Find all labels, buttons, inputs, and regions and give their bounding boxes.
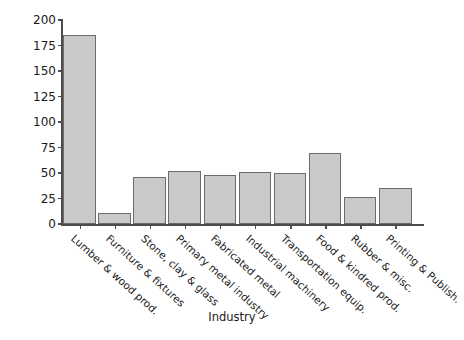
bar-chart-figure: Fatalities in 2000 025507510012515017520… [0, 0, 464, 340]
x-axis-tick-mark [115, 224, 117, 229]
y-axis-tick-mark [58, 70, 62, 72]
y-axis-tick-label: 0 [30, 218, 56, 230]
x-axis-tick-mark [185, 224, 187, 229]
bar [274, 173, 307, 224]
y-axis-tick-mark [58, 121, 62, 123]
y-axis-tick-label: 125 [30, 91, 56, 103]
y-axis-tick: 200 [30, 14, 62, 26]
y-axis-tick-label: 50 [30, 167, 56, 179]
y-axis-tick-label: 25 [30, 193, 56, 205]
y-axis-tick: 100 [30, 116, 62, 128]
x-axis-category-label: Rubber & misc. [349, 232, 417, 295]
y-axis-tick: 125 [30, 91, 62, 103]
y-axis-tick-mark [58, 45, 62, 47]
y-axis-tick: 175 [30, 40, 62, 52]
y-axis-tick-mark [58, 96, 62, 98]
y-axis-tick-mark [58, 172, 62, 174]
y-axis-tick: 25 [30, 193, 62, 205]
y-axis-tick-label: 200 [30, 14, 56, 26]
bar [379, 188, 412, 224]
x-axis-tick-mark [395, 224, 397, 229]
y-axis-tick-label: 150 [30, 65, 56, 77]
bar [63, 35, 96, 224]
y-axis-tick-mark [58, 198, 62, 200]
y-axis-tick: 50 [30, 167, 62, 179]
y-axis-tick-label: 100 [30, 116, 56, 128]
x-axis-title: Industry [0, 310, 464, 324]
x-axis-tick-mark [255, 224, 257, 229]
bar [204, 175, 237, 224]
y-axis-tick-label: 175 [30, 40, 56, 52]
y-axis-tick-mark [58, 19, 62, 21]
bar [309, 153, 342, 224]
bar [344, 197, 377, 224]
y-axis-tick-label: 75 [30, 142, 56, 154]
y-axis-tick: 150 [30, 65, 62, 77]
x-axis-tick-mark [360, 224, 362, 229]
x-axis-tick-mark [290, 224, 292, 229]
y-axis-tick-mark [58, 223, 62, 225]
x-axis-tick-mark [220, 224, 222, 229]
bar [98, 213, 131, 224]
bar [239, 172, 272, 224]
x-axis-tick-mark [80, 224, 82, 229]
bar [168, 171, 201, 224]
y-axis-tick: 75 [30, 142, 62, 154]
plot-area: 0255075100125150175200 [62, 20, 424, 224]
x-axis-tick-mark [325, 224, 327, 229]
bar [133, 177, 166, 224]
y-axis-tick: 0 [30, 218, 62, 230]
x-axis-tick-mark [150, 224, 152, 229]
y-axis-tick-mark [58, 147, 62, 149]
